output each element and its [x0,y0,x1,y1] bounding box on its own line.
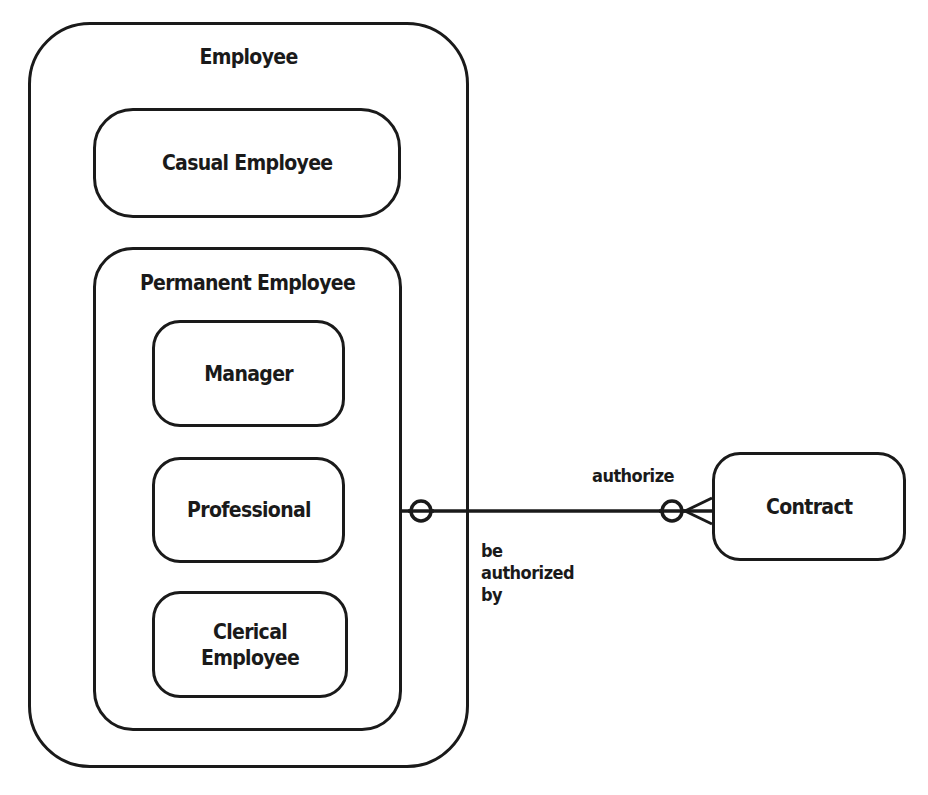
relationship-line [0,0,928,795]
relationship-label-authorized: authorized [481,563,574,583]
relationship-label-authorize: authorize [592,466,674,486]
relationship-label-be: be [481,541,503,561]
relationship-label-by: by [481,585,502,605]
